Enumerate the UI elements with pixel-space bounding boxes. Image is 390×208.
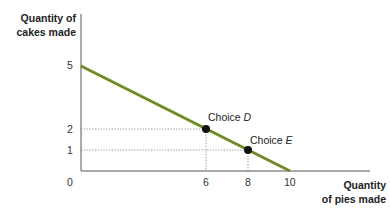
x-tick-10: 10	[284, 176, 296, 188]
point-choice-e	[244, 146, 252, 154]
y-tick-5: 5	[67, 59, 73, 71]
choice-d-letter: D	[244, 111, 252, 123]
origin-tick-0: 0	[67, 176, 73, 188]
y-tick-2: 2	[67, 123, 73, 135]
choice-e-word: Choice	[250, 134, 283, 146]
y-axis-label-line1: Quantity of	[6, 11, 76, 25]
x-axis-label: Quantity of pies made	[300, 178, 386, 206]
y-tick-1: 1	[67, 144, 73, 156]
choice-e-letter: E	[286, 134, 293, 146]
ppf-line	[81, 66, 290, 171]
y-axis-label-line2: cakes made	[6, 25, 76, 39]
annotation-choice-e: Choice E	[250, 134, 293, 146]
x-tick-6: 6	[203, 176, 209, 188]
x-tick-8: 8	[245, 176, 251, 188]
annotation-choice-d: Choice D	[208, 111, 251, 123]
y-axis-label: Quantity of cakes made	[6, 11, 76, 39]
point-choice-d	[202, 125, 210, 133]
choice-d-word: Choice	[208, 111, 241, 123]
x-axis-label-line2: of pies made	[300, 192, 386, 206]
x-axis-label-line1: Quantity	[300, 178, 386, 192]
